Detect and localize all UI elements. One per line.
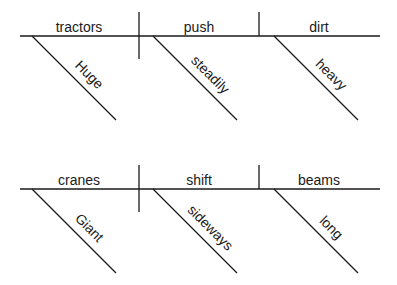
object-modifier-word: heavy	[313, 56, 351, 94]
sentence-diagram-1: tractors push dirt Huge steadily heavy	[20, 12, 380, 120]
object-modifier-word: long	[317, 212, 347, 242]
verb-modifier-word: steadily	[188, 52, 233, 97]
verb-word: shift	[186, 172, 212, 188]
sentence-diagram-2: cranes shift beams Giant sideways long	[20, 165, 380, 273]
subject-modifier-word: Giant	[72, 210, 107, 245]
object-word: beams	[298, 172, 340, 188]
subject-word: cranes	[58, 172, 100, 188]
subject-word: tractors	[56, 19, 103, 35]
object-word: dirt	[309, 19, 329, 35]
subject-modifier-word: Huge	[72, 57, 107, 92]
verb-word: push	[184, 19, 214, 35]
sentence-diagrams: tractors push dirt Huge steadily heavy c…	[0, 0, 397, 285]
